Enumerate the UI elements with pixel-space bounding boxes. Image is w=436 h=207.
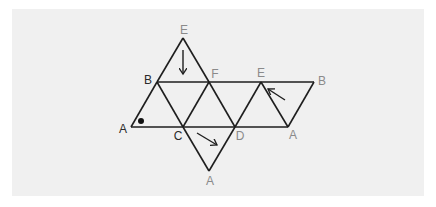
vertex-label-b-right: B (318, 75, 326, 87)
vertex-label-e-top: E (180, 24, 188, 36)
edge-C-A_bottom (183, 127, 209, 171)
arrow-diagonal-bottom-face-icon (197, 133, 217, 145)
edge-E_top-B_left (157, 38, 183, 82)
vertex-label-a-bottom: A (206, 175, 214, 187)
vertex-label-c: C (174, 130, 183, 142)
edge-E_right-D (235, 82, 261, 127)
edge-E_right-A_right (261, 82, 288, 127)
vertex-label-f: F (211, 68, 218, 80)
edge-F-D (209, 82, 235, 127)
angle-dot-marker (138, 118, 144, 124)
edge-D-A_bottom (209, 127, 235, 171)
edge-B_left-C (157, 82, 183, 127)
vertex-label-b-left: B (144, 74, 152, 86)
edge-B_right-A_right (288, 82, 314, 127)
vertex-label-a-left: A (119, 123, 127, 135)
vertex-label-e-right: E (257, 67, 265, 79)
vertex-label-d: D (236, 130, 245, 142)
net-edges (131, 38, 314, 171)
edge-F-C (183, 82, 209, 127)
edge-E_top-F (183, 38, 209, 82)
edge-B_left-A_left (131, 82, 157, 127)
octahedron-net (0, 0, 436, 207)
vertex-label-a-right: A (289, 129, 297, 141)
